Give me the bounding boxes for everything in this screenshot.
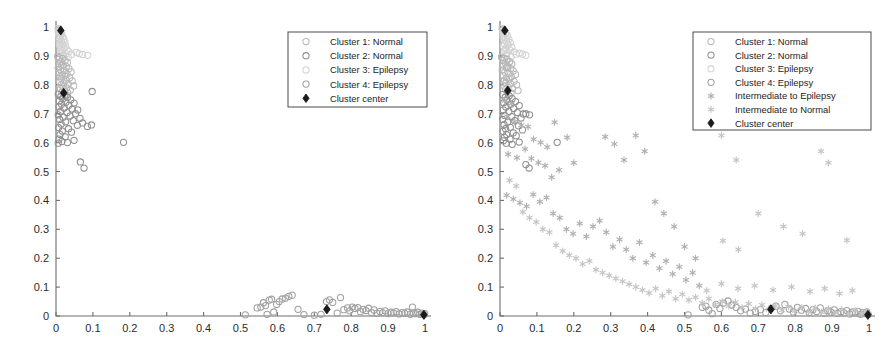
series-cluster-1-normal — [54, 53, 76, 96]
data-point-circle — [509, 141, 515, 147]
y-tick-label: 0.6 — [478, 137, 493, 149]
data-point-star — [657, 265, 662, 271]
data-point-star — [520, 209, 525, 215]
data-point-star — [540, 226, 545, 232]
data-point-star — [653, 286, 658, 292]
data-point-circle — [71, 137, 77, 143]
data-point-star — [682, 244, 687, 250]
y-tick-label: 0.8 — [34, 79, 49, 91]
legend-entry-label: Cluster 1: Normal — [330, 36, 403, 47]
series-cluster-4-epilepsy — [685, 298, 871, 318]
data-point-star — [560, 248, 565, 254]
y-tick-label: 1 — [487, 21, 493, 33]
data-point-star — [652, 199, 657, 205]
data-point-circle — [268, 296, 274, 302]
data-point-star — [577, 221, 582, 227]
data-point-circle — [515, 87, 521, 93]
series-cluster-2-normal — [55, 88, 127, 171]
data-point-circle — [77, 159, 83, 165]
data-point-star — [818, 148, 823, 154]
data-point-star — [522, 146, 527, 152]
legend-entry-label: Cluster 2: Normal — [330, 50, 403, 61]
x-tick-label: 0.3 — [159, 322, 174, 334]
data-point-star — [590, 223, 595, 229]
data-point-star — [735, 286, 740, 292]
legend[interactable]: Cluster 1: NormalCluster 2: NormalCluste… — [693, 32, 871, 130]
data-point-star — [587, 258, 592, 264]
data-point-star — [552, 119, 557, 125]
y-tick-label: 0.4 — [478, 194, 493, 206]
data-point-star — [544, 195, 549, 201]
cluster-center-diamond — [324, 305, 331, 314]
data-point-star — [570, 231, 575, 237]
data-point-circle — [516, 139, 522, 145]
data-point-circle — [337, 294, 343, 300]
data-point-star — [734, 157, 739, 163]
data-point-star — [593, 267, 598, 273]
data-point-circle — [334, 310, 340, 316]
data-point-star — [573, 255, 578, 261]
data-point-circle — [242, 312, 248, 318]
legend-entry-label: Cluster 3: Epilepsy — [735, 63, 813, 74]
data-point-star — [697, 283, 702, 289]
left-plot-canvas: 00.10.20.30.40.50.60.70.80.9100.10.20.30… — [0, 0, 444, 353]
data-point-star — [600, 270, 605, 276]
data-point-star — [663, 258, 668, 264]
data-point-star — [630, 255, 635, 261]
y-tick-label: 0.6 — [34, 137, 49, 149]
x-tick-label: 1 — [866, 322, 872, 334]
y-tick-label: 0.5 — [34, 166, 49, 178]
x-tick-label: 0.1 — [85, 322, 100, 334]
x-tick-label: 0.1 — [529, 322, 544, 334]
data-point-circle — [81, 165, 87, 171]
data-point-star — [720, 238, 725, 244]
data-point-star — [506, 151, 511, 157]
y-tick-label: 0.4 — [34, 194, 49, 206]
data-point-star — [517, 200, 522, 206]
y-tick-label: 0 — [43, 310, 49, 322]
data-point-star — [770, 287, 775, 293]
legend[interactable]: Cluster 1: NormalCluster 2: NormalCluste… — [288, 32, 427, 107]
x-tick-label: 0.2 — [122, 322, 137, 334]
y-tick-label: 0.1 — [34, 281, 49, 293]
data-point-star — [693, 294, 698, 300]
data-point-star — [736, 247, 741, 253]
y-tick-label: 1 — [43, 21, 49, 33]
data-point-circle — [526, 112, 532, 118]
data-point-star — [677, 264, 682, 270]
x-tick-label: 0.7 — [751, 322, 766, 334]
data-point-star — [781, 223, 786, 229]
data-point-star — [551, 210, 556, 216]
data-point-star — [534, 219, 539, 225]
legend-entry-label: Cluster center — [330, 93, 388, 104]
data-point-star — [683, 277, 688, 283]
y-tick-label: 0 — [487, 310, 493, 322]
data-point-star — [504, 192, 509, 198]
series-intermediate-to-epilepsy — [502, 98, 702, 289]
data-point-star — [538, 140, 543, 146]
x-tick-label: 0.9 — [824, 322, 839, 334]
data-point-star — [549, 174, 554, 180]
data-point-star — [565, 134, 570, 140]
y-tick-label: 0.3 — [34, 223, 49, 235]
y-tick-label: 0.3 — [478, 223, 493, 235]
data-point-star — [686, 297, 691, 303]
data-point-star — [617, 236, 622, 242]
data-point-star — [553, 242, 558, 248]
scatter-plot-figure: 00.10.20.30.40.50.60.70.80.9100.10.20.30… — [0, 0, 888, 353]
data-point-star — [531, 192, 536, 198]
data-point-star — [514, 155, 519, 161]
data-point-circle — [84, 123, 90, 129]
data-point-star — [525, 124, 530, 130]
data-point-star — [604, 229, 609, 235]
data-point-star — [511, 196, 516, 202]
data-point-star — [633, 132, 638, 138]
x-tick-label: 0.4 — [196, 322, 211, 334]
data-point-star — [690, 270, 695, 276]
left-scatter-panel: 00.10.20.30.40.50.60.70.80.9100.10.20.30… — [0, 0, 444, 353]
x-tick-label: 0.6 — [270, 322, 285, 334]
data-point-star — [650, 252, 655, 258]
y-tick-label: 0.1 — [478, 281, 493, 293]
y-tick-label: 0.5 — [478, 166, 493, 178]
x-tick-label: 0.8 — [788, 322, 803, 334]
